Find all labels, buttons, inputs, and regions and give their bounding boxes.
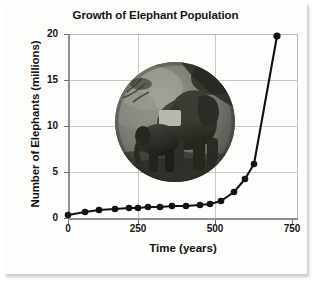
x-axis-title: Time (years): [68, 242, 298, 254]
ytick-mark-20: [64, 34, 69, 35]
chart-title: Growth of Elephant Population: [4, 9, 307, 21]
chart-card: Growth of Elephant Population: [4, 2, 307, 274]
ytick-mark-15: [64, 80, 69, 81]
x-axis-line: [68, 218, 298, 220]
ytick-mark-5: [64, 172, 69, 173]
y-axis-title: Number of Elephants (millions): [29, 19, 41, 229]
ytick-mark-0: [64, 218, 69, 219]
xtick-label-0: 0: [48, 223, 88, 234]
xtick-label-500: 500: [195, 223, 235, 234]
xtick-label-250: 250: [118, 223, 158, 234]
xtick-label-750: 750: [272, 223, 307, 234]
elephant-photo-inset: [115, 62, 235, 182]
ytick-mark-10: [64, 126, 69, 127]
